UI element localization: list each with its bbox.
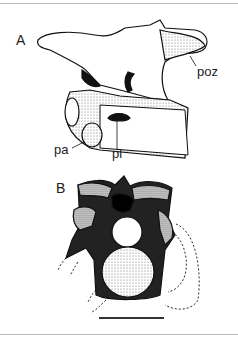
label-poz: poz <box>197 65 218 78</box>
vertebra-illustration <box>0 0 238 343</box>
label-pl: pl <box>112 147 122 160</box>
scale-bar <box>99 317 164 319</box>
panel-a-drawing <box>38 20 207 158</box>
panel-label-a: A <box>16 33 25 47</box>
bottom-rule <box>0 334 238 335</box>
label-pa: pa <box>54 143 68 156</box>
panel-b-drawing <box>66 176 175 300</box>
panel-label-b: B <box>56 181 65 195</box>
